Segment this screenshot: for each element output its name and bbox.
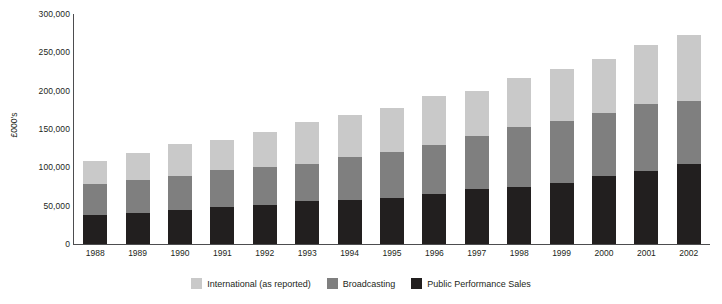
x-axis-tick-label: 1994	[328, 248, 372, 258]
legend-swatch-icon	[191, 278, 202, 289]
segment-international[interactable]	[465, 91, 489, 136]
segment-public-performance-sales[interactable]	[465, 189, 489, 244]
segment-international[interactable]	[422, 96, 446, 145]
y-axis-tick-label: 250,000	[8, 47, 70, 57]
x-axis-tick-label: 1990	[158, 248, 202, 258]
segment-public-performance-sales[interactable]	[422, 194, 446, 244]
bar-stack[interactable]	[83, 161, 107, 244]
segment-international[interactable]	[253, 132, 277, 167]
x-axis-tick-label: 1992	[243, 248, 287, 258]
segment-international[interactable]	[210, 140, 234, 170]
chart-legend: International (as reported)BroadcastingP…	[0, 278, 722, 289]
bar-stack[interactable]	[168, 144, 192, 244]
segment-international[interactable]	[338, 115, 362, 157]
x-axis-tick-label: 1999	[540, 248, 584, 258]
bars-layer	[74, 14, 710, 244]
x-axis-line	[73, 244, 710, 245]
segment-international[interactable]	[592, 59, 616, 113]
legend-item[interactable]: Broadcasting	[327, 278, 396, 289]
segment-international[interactable]	[550, 69, 574, 120]
x-axis-tick-label: 1993	[285, 248, 329, 258]
segment-public-performance-sales[interactable]	[126, 213, 150, 244]
x-axis-tick-label: 1988	[73, 248, 117, 258]
segment-broadcasting[interactable]	[83, 184, 107, 215]
x-axis-tick-label: 1998	[497, 248, 541, 258]
segment-public-performance-sales[interactable]	[83, 215, 107, 244]
bar-stack[interactable]	[253, 132, 277, 244]
segment-international[interactable]	[168, 144, 192, 175]
segment-broadcasting[interactable]	[126, 180, 150, 212]
x-axis-tick-label: 2000	[582, 248, 626, 258]
legend-item[interactable]: Public Performance Sales	[411, 278, 531, 289]
bar-stack[interactable]	[422, 96, 446, 244]
segment-international[interactable]	[295, 122, 319, 163]
segment-public-performance-sales[interactable]	[592, 176, 616, 244]
segment-public-performance-sales[interactable]	[380, 198, 404, 244]
stacked-bar-chart: 300,000250,000200,000150,000100,00050,00…	[0, 0, 722, 304]
bar-stack[interactable]	[550, 69, 574, 244]
bar-stack[interactable]	[338, 115, 362, 244]
segment-broadcasting[interactable]	[422, 145, 446, 194]
segment-broadcasting[interactable]	[507, 127, 531, 187]
segment-broadcasting[interactable]	[380, 152, 404, 198]
y-axis-title: £000's	[9, 95, 19, 155]
segment-broadcasting[interactable]	[253, 167, 277, 205]
segment-public-performance-sales[interactable]	[210, 207, 234, 244]
legend-label: Broadcasting	[343, 279, 396, 289]
segment-public-performance-sales[interactable]	[550, 183, 574, 244]
bar-stack[interactable]	[465, 91, 489, 244]
segment-public-performance-sales[interactable]	[634, 171, 658, 244]
segment-international[interactable]	[507, 78, 531, 126]
segment-broadcasting[interactable]	[677, 101, 701, 165]
bar-stack[interactable]	[295, 122, 319, 244]
segment-international[interactable]	[677, 35, 701, 101]
segment-broadcasting[interactable]	[634, 104, 658, 171]
segment-broadcasting[interactable]	[295, 164, 319, 202]
x-axis-tick-label: 2001	[624, 248, 668, 258]
bar-stack[interactable]	[210, 140, 234, 244]
y-axis-tick-label: 300,000	[8, 9, 70, 19]
segment-international[interactable]	[83, 161, 107, 184]
segment-international[interactable]	[126, 153, 150, 181]
bar-stack[interactable]	[507, 78, 531, 244]
x-axis-tick-label: 1996	[412, 248, 456, 258]
segment-public-performance-sales[interactable]	[295, 201, 319, 244]
segment-broadcasting[interactable]	[550, 121, 574, 183]
x-axis-tick-label: 2002	[667, 248, 711, 258]
segment-broadcasting[interactable]	[338, 157, 362, 200]
x-axis-tick-label: 1995	[370, 248, 414, 258]
x-axis-tick-label: 1989	[116, 248, 160, 258]
segment-broadcasting[interactable]	[465, 136, 489, 189]
segment-international[interactable]	[380, 108, 404, 152]
y-axis-tick-label: 50,000	[8, 201, 70, 211]
bar-stack[interactable]	[677, 35, 701, 244]
legend-swatch-icon	[327, 278, 338, 289]
segment-public-performance-sales[interactable]	[168, 210, 192, 245]
bar-stack[interactable]	[380, 108, 404, 244]
legend-item[interactable]: International (as reported)	[191, 278, 311, 289]
segment-public-performance-sales[interactable]	[253, 205, 277, 244]
bar-stack[interactable]	[592, 59, 616, 245]
segment-broadcasting[interactable]	[210, 170, 234, 208]
x-axis-tick-label: 1991	[200, 248, 244, 258]
segment-public-performance-sales[interactable]	[507, 187, 531, 245]
segment-public-performance-sales[interactable]	[677, 164, 701, 244]
y-axis-tick-label: 100,000	[8, 162, 70, 172]
x-axis-tick-label: 1997	[455, 248, 499, 258]
legend-label: International (as reported)	[207, 279, 311, 289]
segment-public-performance-sales[interactable]	[338, 200, 362, 244]
bar-stack[interactable]	[634, 45, 658, 244]
segment-broadcasting[interactable]	[168, 176, 192, 210]
legend-label: Public Performance Sales	[427, 279, 531, 289]
segment-broadcasting[interactable]	[592, 113, 616, 176]
legend-swatch-icon	[411, 278, 422, 289]
y-axis-tick-label: 0	[8, 239, 70, 249]
bar-stack[interactable]	[126, 153, 150, 244]
segment-international[interactable]	[634, 45, 658, 104]
